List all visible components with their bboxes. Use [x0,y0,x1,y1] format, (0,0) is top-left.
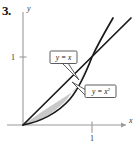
x-axis-arrow-icon [121,123,126,128]
x-tick-label-1: 1 [90,134,94,143]
curve-parabola-y-equals-x-squared [23,18,113,125]
curve-line-y-equals-x [23,18,131,125]
y-tick-label-1: 1 [11,53,15,62]
callout-line-text: y = x [55,53,72,62]
figure-container: 3. 1 1 y x y = x [0,0,136,143]
callout-line-label: y = x [50,51,79,80]
y-axis-label: y [26,4,31,13]
callout-parabola-label: y = x2 [72,82,116,98]
x-axis-label: x [128,116,133,125]
callout-parabola-text-lead: y = x [91,87,108,96]
graph-plot: 1 1 y x y = x y = x2 [0,0,136,143]
